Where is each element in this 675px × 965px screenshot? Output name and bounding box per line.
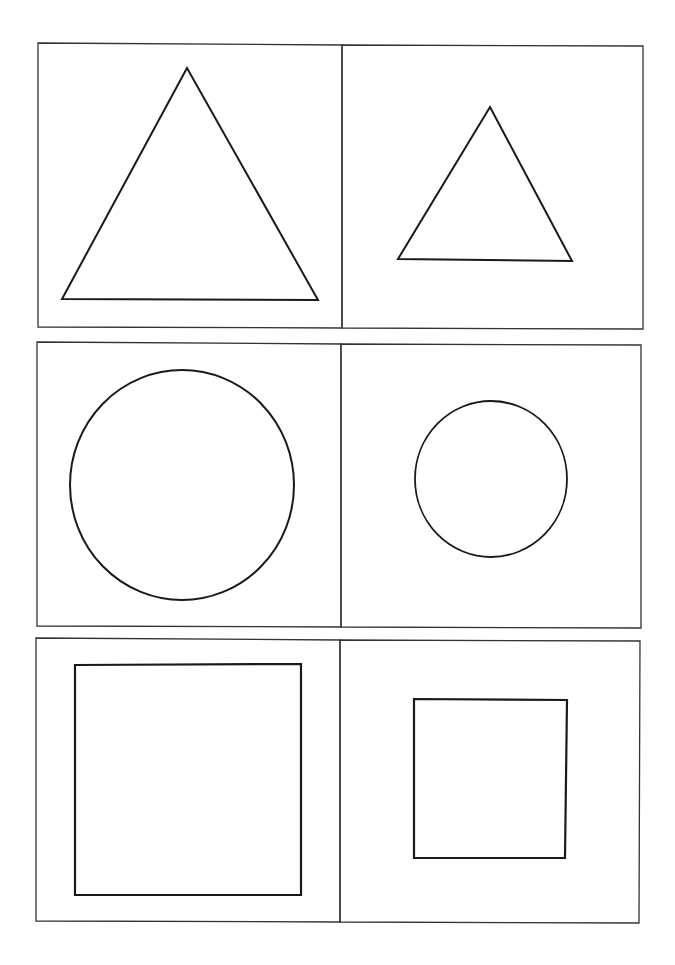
panel-frame-top-left (38, 43, 342, 328)
panel-frame-middle-right (341, 344, 641, 628)
row-circles (37, 342, 641, 628)
small-circle-icon (415, 401, 567, 557)
large-circle-icon (70, 370, 294, 600)
shape-cards-sheet (0, 0, 675, 965)
panel-frame-bottom-left (36, 638, 340, 922)
large-square-icon (75, 664, 301, 895)
panel-frame-top-right (342, 45, 643, 329)
large-triangle-icon (62, 68, 318, 300)
panel-frame-bottom-right (340, 640, 640, 923)
panel-frame-middle-left (37, 342, 341, 627)
small-triangle-icon (398, 107, 572, 261)
row-triangles (38, 43, 643, 329)
small-square-icon (414, 699, 567, 858)
row-squares (36, 638, 640, 923)
